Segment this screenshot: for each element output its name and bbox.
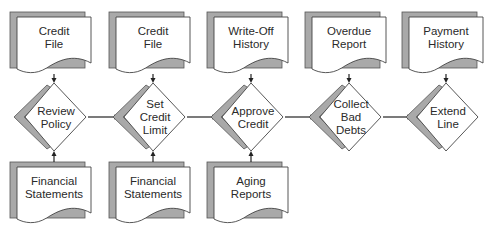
document-label: Report bbox=[332, 38, 367, 50]
input-document-bottom: FinancialStatements bbox=[109, 162, 190, 223]
document-label: File bbox=[45, 38, 64, 50]
process-column-5: PaymentHistoryExtendLine bbox=[402, 12, 483, 151]
process-step: SetCreditLimit bbox=[113, 83, 185, 151]
process-step: ExtendLine bbox=[406, 83, 478, 151]
document-label: History bbox=[233, 38, 269, 50]
arrowhead-icon bbox=[249, 151, 254, 156]
process-label: Policy bbox=[41, 118, 72, 130]
arrowhead-icon bbox=[151, 78, 156, 83]
document-label: Write-Off bbox=[228, 25, 274, 37]
document-label: File bbox=[144, 38, 163, 50]
process-label: Approve bbox=[232, 105, 275, 117]
document-label: Payment bbox=[423, 25, 469, 37]
process-column-4: OverdueReportCollectBadDebts bbox=[305, 12, 386, 151]
arrowhead-icon bbox=[347, 78, 352, 83]
input-document-bottom: AgingReports bbox=[207, 162, 288, 223]
process-step: CollectBadDebts bbox=[309, 83, 381, 151]
process-label: Limit bbox=[143, 124, 168, 136]
input-document-top: CreditFile bbox=[10, 12, 91, 73]
process-column-2: CreditFileSetCreditLimitFinancialStateme… bbox=[109, 12, 190, 223]
process-step: ApproveCredit bbox=[211, 83, 283, 151]
process-label: Credit bbox=[140, 111, 171, 123]
process-label: Collect bbox=[333, 98, 369, 110]
process-step: ReviewPolicy bbox=[14, 83, 86, 151]
process-label: Review bbox=[37, 105, 75, 117]
document-label: Financial bbox=[130, 175, 176, 187]
process-label: Extend bbox=[430, 105, 466, 117]
process-column-3: Write-OffHistoryApproveCreditAgingReport… bbox=[207, 12, 288, 223]
arrowhead-icon bbox=[52, 78, 57, 83]
arrowhead-icon bbox=[249, 78, 254, 83]
document-label: Statements bbox=[124, 188, 182, 200]
document-label: Credit bbox=[39, 25, 70, 37]
process-label: Line bbox=[437, 118, 459, 130]
document-label: Overdue bbox=[327, 25, 371, 37]
document-label: Financial bbox=[31, 175, 77, 187]
credit-process-diagram: CreditFileReviewPolicyFinancialStatement… bbox=[0, 0, 488, 228]
document-label: Aging bbox=[236, 175, 265, 187]
document-label: Credit bbox=[138, 25, 169, 37]
document-label: Reports bbox=[231, 188, 272, 200]
process-label: Debts bbox=[336, 124, 366, 136]
process-column-1: CreditFileReviewPolicyFinancialStatement… bbox=[10, 12, 91, 223]
arrowhead-icon bbox=[52, 151, 57, 156]
document-label: History bbox=[428, 38, 464, 50]
process-label: Bad bbox=[341, 111, 361, 123]
document-label: Statements bbox=[25, 188, 83, 200]
input-document-top: OverdueReport bbox=[305, 12, 386, 73]
arrowhead-icon bbox=[151, 151, 156, 156]
input-document-top: CreditFile bbox=[109, 12, 190, 73]
process-label: Credit bbox=[238, 118, 269, 130]
input-document-top: Write-OffHistory bbox=[207, 12, 288, 73]
process-label: Set bbox=[146, 98, 164, 110]
input-document-top: PaymentHistory bbox=[402, 12, 483, 73]
input-document-bottom: FinancialStatements bbox=[10, 162, 91, 223]
arrowhead-icon bbox=[444, 78, 449, 83]
